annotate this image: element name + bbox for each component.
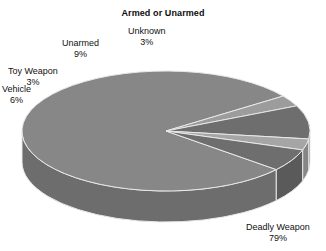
pie-label-name: Unarmed [62,38,99,49]
pie-label-deadly-weapon: Deadly Weapon79% [246,222,310,244]
pie-label-name: Toy Weapon [8,66,58,77]
pie-chart-figure: Armed or Unarmed Unknown3%Unarmed9%Toy W… [0,0,326,251]
pie-label-vehicle: Vehicle6% [2,84,31,106]
pie-label-unknown: Unknown3% [128,26,166,48]
pie-label-name: Vehicle [2,84,31,95]
pie-label-percent: 6% [2,95,31,106]
pie-label-name: Unknown [128,26,166,37]
pie-label-percent: 9% [62,49,99,60]
pie-top-faces [22,71,310,191]
pie-label-percent: 79% [246,233,310,244]
pie-label-unarmed: Unarmed9% [62,38,99,60]
pie-label-percent: 3% [128,37,166,48]
pie-label-name: Deadly Weapon [246,222,310,233]
